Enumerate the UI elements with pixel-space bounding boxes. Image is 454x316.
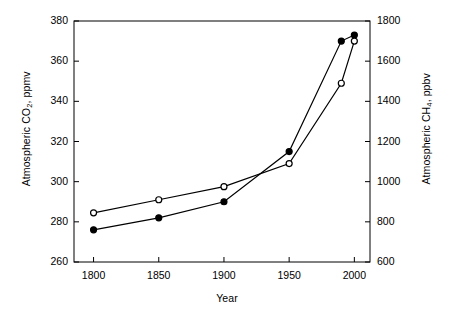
data-point-marker: [91, 210, 97, 216]
y-left-tick-label: 320: [32, 135, 68, 147]
data-point-marker: [221, 184, 227, 190]
data-point-marker: [338, 38, 344, 44]
data-point-marker: [351, 38, 357, 44]
y-right-tick-label: 1000: [377, 175, 417, 187]
figure: Atmospheric CO2, ppmv Atmospheric CH4, p…: [0, 0, 454, 316]
y-right-tick-label: 800: [377, 215, 417, 227]
y-left-tick-label: 260: [32, 255, 68, 267]
y-right-tick-label: 600: [377, 255, 417, 267]
y-right-tick-label: 1200: [377, 135, 417, 147]
y-left-tick-label: 360: [32, 54, 68, 66]
y-right-tick-label: 1400: [377, 94, 417, 106]
x-tick-label: 1950: [264, 269, 314, 281]
x-axis-title: Year: [0, 292, 454, 304]
data-point-marker: [91, 227, 97, 233]
y-left-tick-label: 340: [32, 94, 68, 106]
x-tick-label: 1850: [134, 269, 184, 281]
y-left-tick-label: 300: [32, 175, 68, 187]
y-left-title-prefix: Atmospheric CO: [20, 108, 32, 186]
data-point-marker: [338, 80, 344, 86]
data-point-marker: [286, 149, 292, 155]
y-left-tick-label: 380: [32, 14, 68, 26]
y-right-title-prefix: Atmospheric CH: [420, 107, 432, 185]
y-right-tick-label: 1600: [377, 54, 417, 66]
y-axis-right-title: Atmospheric CH4, ppbv: [420, 54, 434, 204]
x-tick-label: 1800: [69, 269, 119, 281]
y-left-tick-label: 280: [32, 215, 68, 227]
data-point-marker: [156, 215, 162, 221]
data-point-marker: [156, 197, 162, 203]
data-series: [91, 32, 358, 233]
data-point-marker: [286, 161, 292, 167]
y-right-tick-label: 1800: [377, 14, 417, 26]
data-point-marker: [221, 199, 227, 205]
x-tick-label: 1900: [199, 269, 249, 281]
data-point-marker: [351, 32, 357, 38]
x-tick-label: 2000: [329, 269, 379, 281]
y-left-title-suffix: , ppmv: [20, 71, 32, 103]
y-right-title-subscript: 4: [425, 102, 434, 106]
y-right-title-suffix: , ppbv: [420, 73, 432, 102]
